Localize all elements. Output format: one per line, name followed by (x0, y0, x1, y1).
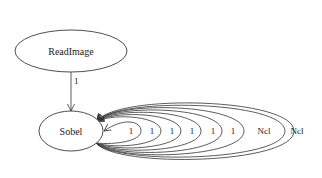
self-loop-label: 1 (170, 126, 175, 136)
self-loop-label: 1 (211, 126, 216, 136)
edge-label: 1 (74, 76, 79, 86)
self-loop-label: 1 (129, 126, 134, 136)
self-loop-label: 1 (231, 126, 236, 136)
node-label: Sobel (60, 126, 83, 137)
edge-readimage-sobel: 1 (71, 72, 79, 111)
dataflow-diagram: 111111NclNcl 1 ReadImage Sobel (0, 0, 322, 178)
self-loop-label: Ncl (291, 126, 304, 136)
self-loop-edge (96, 115, 181, 148)
self-loop-label: Ncl (258, 126, 271, 136)
self-loop-label: 1 (150, 126, 155, 136)
self-loop-label: 1 (190, 126, 195, 136)
node-readimage[interactable]: ReadImage (15, 30, 127, 72)
self-loops: 111111NclNcl (96, 103, 304, 160)
self-loop-edge (96, 112, 201, 150)
node-label: ReadImage (48, 46, 94, 57)
node-sobel[interactable]: Sobel (39, 111, 103, 151)
